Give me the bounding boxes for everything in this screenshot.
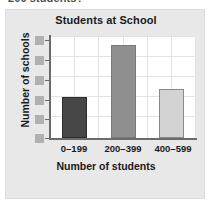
gridline-vertical	[98, 36, 99, 138]
figure-panel: Students at School Number of schools	[5, 9, 205, 199]
x-tick-label-1: 200–399	[98, 143, 148, 154]
y-tick-label-redaction	[35, 115, 44, 124]
chart-title: Students at School	[6, 14, 206, 26]
x-tick-label-0: 0–199	[50, 143, 98, 154]
chart-screenshot: 200 students? Students at School Number …	[0, 0, 210, 204]
x-axis-line	[49, 138, 197, 140]
gridline-vertical	[147, 36, 148, 138]
bar-0-199	[62, 97, 87, 138]
x-axis-title: Number of students	[6, 160, 206, 172]
question-text-cropped: 200 students?	[0, 0, 210, 9]
y-tick-label-redaction	[35, 76, 44, 85]
y-tick-label-redaction	[35, 134, 44, 143]
plot-area	[50, 36, 196, 138]
x-tick-label-2: 400–599	[148, 143, 198, 154]
question-text: 200 students?	[8, 0, 83, 4]
y-axis-title: Number of schools	[19, 25, 31, 135]
gridline-vertical	[195, 36, 196, 138]
y-tick-label-redaction	[35, 96, 44, 105]
y-tick-label-redaction	[35, 36, 44, 45]
y-axis-line	[49, 35, 51, 139]
bar-400-599	[159, 89, 184, 138]
y-tick-label-redaction	[35, 56, 44, 65]
bar-200-399	[111, 45, 136, 138]
